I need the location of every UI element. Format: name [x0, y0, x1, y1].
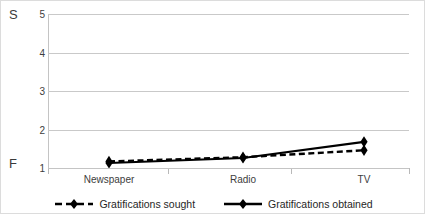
legend-swatch-solid — [223, 198, 263, 210]
plot-area — [48, 14, 409, 168]
legend-label: Gratifications obtained — [268, 198, 372, 210]
x-category-label: Newspaper — [84, 174, 135, 185]
x-axis-line — [48, 168, 409, 169]
legend-item[interactable]: Gratifications sought — [54, 198, 195, 210]
data-point-marker — [360, 136, 367, 147]
legend-label: Gratifications sought — [99, 198, 195, 210]
series-layer — [40, 6, 417, 176]
legend-swatch-dashed — [54, 198, 94, 210]
x-axis-labels: NewspaperRadioTV — [48, 174, 409, 190]
series-line — [109, 150, 364, 161]
x-category-label: TV — [358, 174, 371, 185]
line-chart: S F 12345 NewspaperRadioTV Gratification… — [0, 0, 425, 214]
legend-item[interactable]: Gratifications obtained — [223, 198, 372, 210]
x-category-label: Radio — [230, 174, 256, 185]
x-tick — [409, 168, 410, 174]
chart-legend: Gratifications soughtGratifications obta… — [1, 195, 425, 213]
data-point-marker — [105, 157, 112, 168]
data-point-marker — [239, 152, 246, 163]
